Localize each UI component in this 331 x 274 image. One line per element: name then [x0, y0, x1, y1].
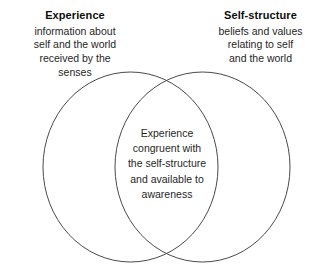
experience-line-1: information about [0, 25, 150, 39]
experience-description: information about self and the world rec… [0, 25, 150, 80]
self-structure-caption: Self-structure beliefs and values relati… [190, 8, 331, 66]
overlap-description: Experience congruent with the self-struc… [112, 126, 222, 202]
experience-caption: Experience information about self and th… [0, 8, 150, 80]
overlap-line-1: Experience [112, 126, 222, 141]
self-structure-description: beliefs and values relating to self and … [190, 25, 331, 67]
self-structure-line-2: relating to self [190, 38, 331, 52]
overlap-line-3: the self-structure [112, 156, 222, 171]
self-structure-line-3: and the world [190, 52, 331, 66]
experience-line-3: received by the [0, 52, 150, 66]
overlap-caption: Experience congruent with the self-struc… [112, 126, 222, 202]
overlap-line-5: awareness [112, 187, 222, 202]
overlap-line-2: congruent with [112, 141, 222, 156]
venn-diagram: Experience information about self and th… [0, 0, 331, 274]
experience-line-2: self and the world [0, 38, 150, 52]
self-structure-title: Self-structure [190, 8, 331, 23]
overlap-line-4: and available to [112, 172, 222, 187]
experience-title: Experience [0, 8, 150, 23]
self-structure-line-1: beliefs and values [190, 25, 331, 39]
experience-line-4: senses [0, 66, 150, 80]
